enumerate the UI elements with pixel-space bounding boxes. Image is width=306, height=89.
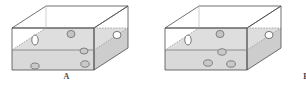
bubble-b2	[216, 30, 224, 37]
bubble-b4	[218, 49, 226, 55]
bubble-b6	[227, 61, 236, 67]
bubble-a5	[81, 61, 89, 67]
bubble-b3	[265, 31, 273, 38]
bubble-a3	[113, 31, 121, 38]
bubble-b1	[185, 35, 191, 45]
panel-a: A	[0, 0, 153, 89]
bubble-a4	[80, 48, 88, 54]
panel-label-b: B	[153, 72, 306, 82]
panel-label-a: A	[14, 72, 119, 82]
panel-b: B	[153, 0, 306, 89]
bubble-b5	[204, 60, 213, 66]
bubble-a2	[67, 30, 75, 37]
bubble-a1	[32, 35, 38, 45]
bubble-a6	[31, 63, 39, 69]
figure-root: A	[0, 0, 306, 89]
